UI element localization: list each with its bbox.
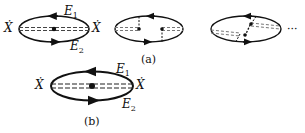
label-b-right-xdot: Ẋ [136,79,145,91]
feynman-diagram-canvas [0,0,305,133]
ellipsis: ··· [287,24,298,35]
label-a1-e2: E2 [70,40,84,55]
label-b-e2: E2 [122,98,136,113]
diagram-a3 [211,16,281,42]
vertex-dot [52,27,56,31]
label-a1-e1: E1 [64,5,78,20]
label-a1-right-xdot: Ẋ [92,22,101,34]
caption-b: (b) [84,116,100,127]
caption-a: (a) [141,54,156,65]
diagram-a2 [115,16,183,42]
label-b-e1: E1 [116,63,130,78]
label-a1-left-xdot: Ẋ [4,22,13,34]
label-b-left-xdot: Ẋ [35,79,44,91]
